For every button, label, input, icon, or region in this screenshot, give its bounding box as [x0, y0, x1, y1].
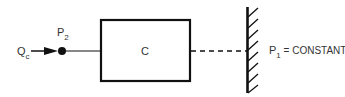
node-label: P2 — [57, 26, 69, 42]
wall-hatching-icon — [248, 8, 258, 93]
node-symbol: P — [57, 26, 64, 38]
flow-diagram: Qc P2 C P1 = CONSTANT — [0, 0, 345, 97]
input-flow-label: Qc — [17, 45, 30, 61]
arrowhead-icon — [44, 47, 58, 55]
boundary-value: = CONSTANT — [281, 45, 345, 56]
component-label: C — [141, 45, 149, 57]
boundary-label: P1 = CONSTANT — [269, 44, 345, 60]
node-subscript: 2 — [64, 33, 69, 42]
boundary-symbol: P — [269, 44, 276, 56]
input-flow-subscript: c — [26, 52, 30, 61]
